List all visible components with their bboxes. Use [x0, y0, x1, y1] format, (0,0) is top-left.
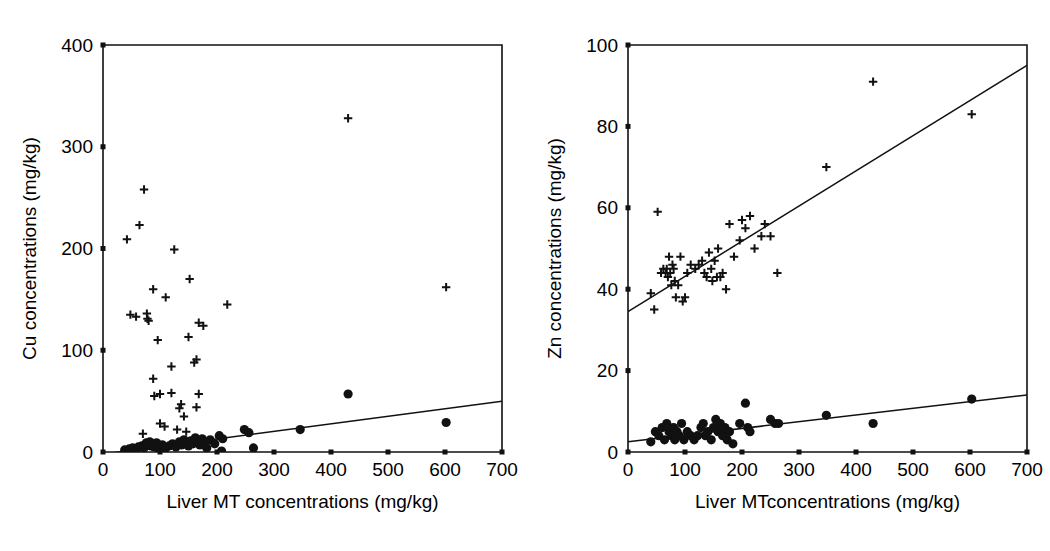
data-point-plus — [344, 114, 352, 122]
x-tick-mark — [626, 450, 631, 455]
data-point-plus — [665, 252, 673, 260]
zn-panel-axes-frame — [628, 45, 1027, 452]
data-point-dot — [741, 399, 750, 408]
data-point-dot — [728, 439, 737, 448]
data-point-plus — [687, 261, 695, 269]
data-point-plus — [761, 220, 769, 228]
data-point-plus — [177, 400, 185, 408]
data-point-dot — [442, 418, 451, 427]
data-point-plus — [738, 216, 746, 224]
y-tick-mark — [626, 287, 631, 292]
data-point-plus — [741, 224, 749, 232]
data-point-dot — [218, 434, 227, 443]
cu-panel-axes-frame — [103, 45, 502, 452]
data-point-dot — [210, 439, 219, 448]
x-tick-label: 0 — [623, 459, 634, 480]
x-tick-mark — [740, 450, 745, 455]
x-tick-mark — [443, 450, 448, 455]
data-point-plus — [223, 300, 231, 308]
data-point-plus — [149, 375, 157, 383]
data-point-plus — [710, 257, 718, 265]
data-point-plus — [195, 390, 203, 398]
data-point-dot — [745, 427, 754, 436]
x-tick-mark — [854, 450, 859, 455]
x-tick-label: 200 — [726, 459, 758, 480]
y-tick-mark — [101, 144, 106, 149]
x-tick-mark — [797, 450, 802, 455]
y-tick-mark — [101, 348, 106, 353]
data-point-dot — [646, 437, 655, 446]
data-point-plus — [869, 77, 877, 85]
zn-panel-y-axis: 020406080100 — [586, 35, 630, 463]
two-panel-scatter-figure: 01002003004000100200300400500600700Liver… — [0, 0, 1050, 551]
zn-panel-canvas: 0204060801000100200300400500600700Liver … — [525, 0, 1050, 551]
data-point-plus — [192, 403, 200, 411]
data-point-plus — [714, 244, 722, 252]
y-tick-label: 0 — [607, 442, 618, 463]
y-tick-mark — [101, 43, 106, 48]
x-axis-title: Liver MTconcentrations (mg/kg) — [695, 491, 960, 512]
y-tick-mark — [626, 368, 631, 373]
x-tick-mark — [101, 450, 106, 455]
cu-panel-canvas: 01002003004000100200300400500600700Liver… — [0, 0, 525, 551]
x-tick-label: 0 — [98, 459, 109, 480]
data-point-dot — [967, 394, 976, 403]
data-point-dot — [677, 419, 686, 428]
x-tick-label: 500 — [372, 459, 404, 480]
cu-panel-plot-area — [103, 114, 502, 456]
data-point-plus — [707, 265, 715, 273]
data-point-plus — [705, 248, 713, 256]
data-point-plus — [750, 244, 758, 252]
y-tick-label: 60 — [597, 197, 618, 218]
data-point-plus — [184, 333, 192, 341]
data-point-plus — [773, 269, 781, 277]
y-tick-label: 0 — [82, 442, 93, 463]
data-point-plus — [736, 236, 744, 244]
y-tick-label: 100 — [61, 340, 93, 361]
data-point-plus — [167, 389, 175, 397]
data-point-plus — [650, 305, 658, 313]
series-plus-series — [123, 114, 451, 438]
data-point-dot — [774, 419, 783, 428]
data-point-dot — [725, 427, 734, 436]
data-point-plus — [672, 293, 680, 301]
y-tick-mark — [626, 205, 631, 210]
y-axis-title: Cu concentrations (mg/kg) — [19, 137, 40, 360]
series-plus-series — [647, 77, 976, 313]
series-dot-series — [646, 394, 976, 448]
x-tick-mark — [386, 450, 391, 455]
data-point-plus — [968, 110, 976, 118]
data-point-dot — [693, 431, 702, 440]
x-tick-label: 300 — [258, 459, 290, 480]
data-point-plus — [676, 252, 684, 260]
data-point-plus — [154, 336, 162, 344]
zn-panel-plot-area — [628, 65, 1027, 448]
zn-panel-x-axis: 0100200300400500600700 — [623, 450, 1043, 481]
x-tick-label: 100 — [144, 459, 176, 480]
y-tick-mark — [101, 246, 106, 251]
data-point-plus — [140, 185, 148, 193]
data-point-plus — [653, 208, 661, 216]
x-tick-label: 300 — [783, 459, 815, 480]
y-tick-label: 20 — [597, 360, 618, 381]
data-point-dot — [249, 443, 258, 452]
y-tick-mark — [626, 43, 631, 48]
y-tick-label: 200 — [61, 238, 93, 259]
data-point-plus — [182, 427, 190, 435]
data-point-plus — [766, 232, 774, 240]
data-point-plus — [123, 235, 131, 243]
chart-panel-cu: 01002003004000100200300400500600700Liver… — [0, 0, 525, 551]
data-point-dot — [707, 435, 716, 444]
data-point-plus — [708, 277, 716, 285]
data-point-dot — [244, 428, 253, 437]
x-tick-mark — [329, 450, 334, 455]
plot-frame — [628, 45, 1027, 452]
data-point-plus — [722, 285, 730, 293]
data-point-dot — [869, 419, 878, 428]
data-point-dot — [296, 425, 305, 434]
x-tick-mark — [968, 450, 973, 455]
x-tick-label: 100 — [669, 459, 701, 480]
y-tick-label: 40 — [597, 279, 618, 300]
data-point-plus — [746, 212, 754, 220]
x-tick-label: 200 — [201, 459, 233, 480]
